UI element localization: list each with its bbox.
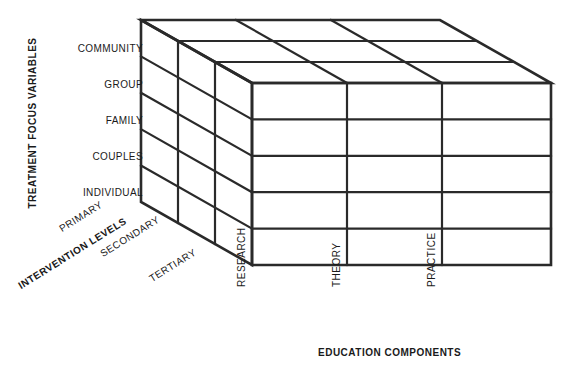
row-label-group: GROUP: [25, 80, 143, 90]
row-label-individual: INDIVIDUAL: [25, 188, 143, 198]
cube-diagram: TREATMENT FOCUS VARIABLES COMMUNITY GROU…: [0, 0, 565, 371]
row-label-couples: COUPLES: [25, 152, 143, 162]
row-label-community: COMMUNITY: [25, 44, 143, 54]
top-col-line-1: [236, 20, 347, 83]
left-row-line-2: [141, 93, 252, 156]
column-label-practice: PRACTICE: [427, 232, 437, 287]
row-label-family: FAMILY: [25, 116, 143, 126]
top-col-line-2: [331, 20, 442, 83]
front-face: [252, 83, 551, 265]
left-row-line-3: [141, 129, 252, 192]
horizontal-axis-title: EDUCATION COMPONENTS: [318, 348, 461, 358]
left-row-line-1: [141, 56, 252, 119]
cube-wireframe: [0, 0, 565, 371]
column-label-theory: THEORY: [332, 243, 342, 288]
column-label-research: RESEARCH: [237, 227, 247, 287]
